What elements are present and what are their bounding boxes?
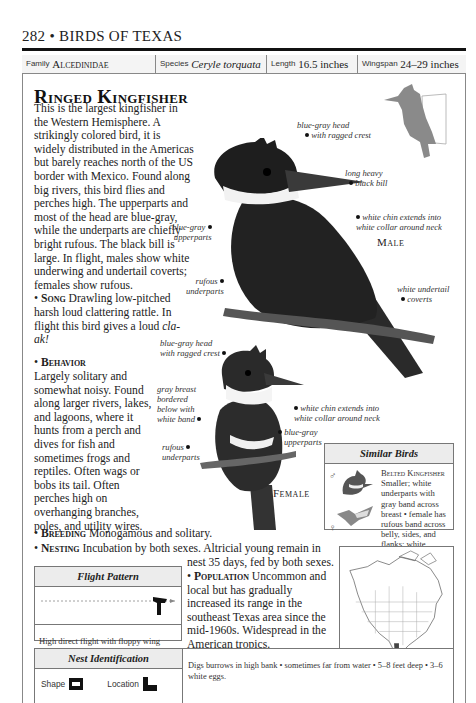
population-section: • Population Uncommon and local but has …: [187, 570, 332, 652]
nest-location-label: Location: [107, 679, 139, 689]
belted-kingfisher-male-thumbnail: [337, 468, 373, 498]
behavior-text-block: Largely solitary and somewhat noisy. Fou…: [34, 370, 154, 533]
length-label: Length: [271, 59, 295, 68]
nest-identification-box: Nest Identification Shape Location Digs …: [34, 648, 454, 703]
breeding-heading: Breeding: [41, 527, 86, 540]
range-map: [339, 546, 454, 658]
flight-pattern-diagram: [35, 587, 181, 625]
behavior-text: Largely solitary and somewhat noisy. Fou…: [34, 370, 151, 533]
species-cell: Species Ceryle torquata: [156, 55, 267, 73]
nesting-heading: Nesting: [41, 542, 80, 555]
breeding-section: • Breeding Monogamous and solitary.: [34, 527, 364, 541]
wingspan-cell: Wingspan 24–29 inches: [358, 55, 466, 73]
callout-female-underparts: rufous underparts: [162, 442, 200, 462]
flight-path-icon: [35, 587, 181, 625]
separator: •: [49, 28, 55, 44]
male-symbol: ♂: [329, 470, 337, 481]
flight-pattern-box: Flight Pattern High direct flight with f…: [34, 566, 182, 641]
family-cell: Family Alcedinidae: [22, 55, 156, 73]
behavior-section: • Behavior: [34, 356, 189, 370]
flight-pattern-heading: Flight Pattern: [35, 567, 181, 587]
belted-kingfisher-female-thumbnail: [335, 502, 375, 530]
similar-species-name: Belted Kingfisher: [381, 468, 449, 478]
wingspan-label: Wingspan: [362, 59, 398, 68]
nest-shape-location-row: Shape Location: [35, 669, 182, 699]
population-heading: Population: [194, 570, 249, 583]
song-section: • Song Drawling low-pitched harsh loud c…: [34, 292, 180, 346]
description: This is the largest kingfisher in the We…: [34, 102, 194, 347]
behavior-heading: Behavior: [41, 356, 86, 369]
callout-male-chin: white chin extends into white collar aro…: [356, 212, 442, 232]
head-rule: [22, 48, 466, 51]
nest-identification-heading: Nest Identification: [35, 649, 182, 669]
family-value: Alcedinidae: [52, 58, 108, 70]
family-label: Family: [26, 59, 50, 68]
species-value: Ceryle torquata: [191, 58, 261, 70]
species-label: Species: [160, 59, 188, 68]
callout-male-head: blue-gray head with ragged crest: [297, 120, 371, 140]
nesting-text-2: nest 35 days, fed by both sexes.: [187, 556, 334, 569]
callout-female-chin: white chin extends into white collar aro…: [294, 403, 380, 423]
callout-female-upperparts: blue-gray upperparts: [278, 427, 322, 447]
similar-birds-box: Similar Birds ♂ ♀ Belted Kingfisher Smal…: [324, 443, 454, 530]
nesting-section: • Nesting Incubation by both sexes. Altr…: [34, 542, 364, 556]
nest-shape-label: Shape: [41, 679, 65, 689]
male-label: Male: [377, 236, 404, 248]
length-cell: Length 16.5 inches: [267, 55, 358, 73]
callout-male-underparts: rufous underparts: [186, 276, 224, 296]
wingspan-value: 24–29 inches: [400, 58, 458, 70]
callout-female-breast: gray breast bordered below with white ba…: [157, 384, 201, 424]
callout-male-undertail: white undertail coverts: [397, 284, 449, 304]
running-head: 282 • BIRDS OF TEXAS: [22, 28, 182, 45]
book-title: BIRDS OF TEXAS: [59, 28, 182, 44]
nest-identification-description: Digs burrows in high bank • sometimes fa…: [184, 649, 453, 682]
callout-female-head: blue-gray head with ragged crest: [160, 338, 226, 358]
female-label: Female: [273, 487, 310, 499]
nest-identification-left: Nest Identification Shape Location: [35, 649, 183, 703]
page-number: 282: [22, 28, 45, 44]
bank-location-icon: [143, 677, 157, 691]
description-text: This is the largest kingfisher in the We…: [34, 102, 194, 292]
burrow-shape-icon: [69, 678, 83, 690]
breeding-text: Monogamous and solitary.: [89, 527, 212, 540]
length-value: 16.5 inches: [298, 58, 348, 70]
nesting-text-1: Incubation by both sexes. Altricial youn…: [82, 542, 320, 555]
similar-birds-heading: Similar Birds: [325, 444, 453, 464]
callout-male-bill: long heavy black bill: [345, 168, 387, 188]
info-bar: Family Alcedinidae Species Ceryle torqua…: [22, 55, 466, 74]
callout-male-upperparts: blue-gray upperparts: [172, 222, 212, 242]
song-heading: Song: [41, 292, 66, 305]
